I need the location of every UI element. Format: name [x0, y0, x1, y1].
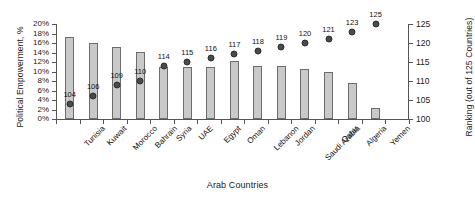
scatter-point-label: 118	[252, 37, 264, 46]
bar	[159, 67, 168, 119]
bar	[206, 67, 215, 119]
x-axis-label-uae: UAE	[197, 124, 215, 142]
y-tick-label-right: 105	[416, 95, 430, 105]
bar	[183, 67, 192, 119]
y-tick-left	[52, 91, 56, 92]
y-tick-label-right: 115	[416, 57, 430, 67]
y-axis-right-title: Ranking (out of 125 Countries)	[464, 2, 474, 152]
y-tick-right	[409, 100, 413, 101]
x-tick	[127, 120, 128, 124]
y-tick-left	[52, 81, 56, 82]
x-tick	[56, 120, 57, 124]
y-tick-label-left: 18%	[33, 29, 49, 38]
y-tick-right	[409, 24, 413, 25]
scatter-point-label: 114	[158, 52, 170, 61]
y-tick-label-left: 8%	[37, 76, 49, 85]
scatter-point-label: 121	[322, 25, 335, 34]
y-tick-left	[52, 72, 56, 73]
scatter-point	[113, 81, 120, 88]
plot-area: 20%18%16%14%12%10%8%6%4%2%0% 12512011511…	[56, 24, 409, 119]
x-axis-line	[56, 119, 409, 120]
y-tick-right	[409, 81, 413, 82]
x-tick	[174, 120, 175, 124]
x-axis-label-tunisia: Tunisia	[82, 124, 106, 148]
scatter-point	[90, 93, 97, 100]
y-tick-label-left: 2%	[37, 105, 49, 114]
scatter-point	[207, 55, 214, 62]
scatter-point	[231, 51, 238, 58]
x-axis-label-algeria: Algeria	[364, 124, 388, 148]
bar	[89, 43, 98, 119]
x-tick	[315, 120, 316, 124]
x-tick	[338, 120, 339, 124]
y-tick-label-left: 16%	[33, 38, 49, 47]
y-tick-right	[409, 62, 413, 63]
y-tick-right	[409, 43, 413, 44]
scatter-point-label: 120	[299, 29, 312, 38]
y-tick-label-right: 110	[416, 76, 430, 86]
y-tick-label-right: 120	[416, 38, 430, 48]
scatter-point-label: 116	[205, 44, 217, 53]
x-axis-label-egypt: Egypt	[222, 124, 243, 145]
x-tick	[362, 120, 363, 124]
x-tick	[197, 120, 198, 124]
y-tick-left	[52, 110, 56, 111]
x-axis-label-morocco: Morocco	[131, 124, 159, 152]
y-tick-left	[52, 34, 56, 35]
scatter-point	[372, 21, 379, 28]
scatter-point-label: 117	[228, 40, 240, 49]
scatter-point	[254, 47, 261, 54]
bar	[348, 83, 357, 119]
x-axis-label-syria: Syria	[174, 124, 193, 143]
x-tick	[291, 120, 292, 124]
scatter-point	[301, 40, 308, 47]
scatter-point	[137, 78, 144, 85]
scatter-point	[184, 59, 191, 66]
x-tick	[221, 120, 222, 124]
x-tick	[385, 120, 386, 124]
x-tick	[268, 120, 269, 124]
y-tick-left	[52, 43, 56, 44]
y-tick-label-left: 0%	[37, 114, 49, 123]
x-tick	[80, 120, 81, 124]
chart-container: Political Empowerment, % Ranking (out of…	[0, 0, 475, 201]
y-tick-label-left: 12%	[33, 57, 49, 66]
scatter-point-label: 125	[369, 10, 382, 19]
scatter-point-label: 115	[181, 48, 193, 57]
bar	[371, 108, 380, 119]
scatter-point-label: 123	[346, 18, 359, 27]
y-axis-left-line	[56, 24, 57, 120]
x-axis-label-oman: Oman	[246, 124, 268, 146]
y-tick-label-left: 14%	[33, 48, 49, 57]
y-tick-label-right: 125	[416, 19, 430, 29]
scatter-point	[278, 43, 285, 50]
y-tick-left	[52, 62, 56, 63]
y-tick-label-right: 100	[416, 114, 430, 124]
bar	[324, 72, 333, 120]
scatter-point-label: 109	[110, 71, 123, 80]
y-tick-left	[52, 53, 56, 54]
y-tick-left	[52, 24, 56, 25]
x-axis-label-yemen: Yemen	[388, 124, 412, 148]
y-axis-left-title: Political Empowerment, %	[15, 17, 25, 137]
y-tick-label-left: 10%	[33, 67, 49, 76]
bar	[136, 52, 145, 119]
scatter-point	[160, 62, 167, 69]
x-tick	[244, 120, 245, 124]
scatter-point	[325, 36, 332, 43]
scatter-point-label: 104	[63, 90, 76, 99]
x-tick	[150, 120, 151, 124]
y-tick-label-left: 4%	[37, 95, 49, 104]
y-tick-label-left: 6%	[37, 86, 49, 95]
scatter-point-label: 119	[275, 33, 287, 42]
scatter-point-label: 110	[134, 67, 146, 76]
x-axis-title: Arab Countries	[0, 180, 475, 190]
y-axis-right-line	[408, 24, 409, 120]
scatter-point	[66, 100, 73, 107]
y-tick-label-left: 20%	[33, 19, 49, 28]
x-tick	[103, 120, 104, 124]
bar	[300, 69, 309, 119]
scatter-point	[349, 28, 356, 35]
y-tick-left	[52, 100, 56, 101]
bar	[277, 66, 286, 119]
